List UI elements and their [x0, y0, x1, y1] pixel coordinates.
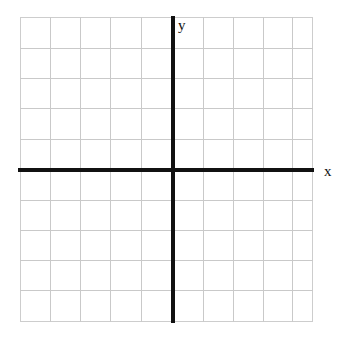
x-axis-line: [18, 168, 314, 172]
grid-line-horizontal: [20, 290, 313, 291]
x-axis-label: x: [324, 164, 332, 179]
grid-line-horizontal: [20, 260, 313, 261]
grid-border-top: [20, 17, 313, 18]
grid-line-horizontal: [20, 200, 313, 201]
grid-line-horizontal: [20, 78, 313, 79]
grid-line-horizontal: [20, 139, 313, 140]
coordinate-plane-figure: y x: [0, 0, 343, 337]
grid-line-horizontal: [20, 230, 313, 231]
y-axis-line: [171, 16, 175, 323]
grid-line-horizontal: [20, 108, 313, 109]
grid-border-bottom: [20, 321, 313, 322]
grid-line-horizontal: [20, 48, 313, 49]
y-axis-label: y: [178, 18, 186, 33]
